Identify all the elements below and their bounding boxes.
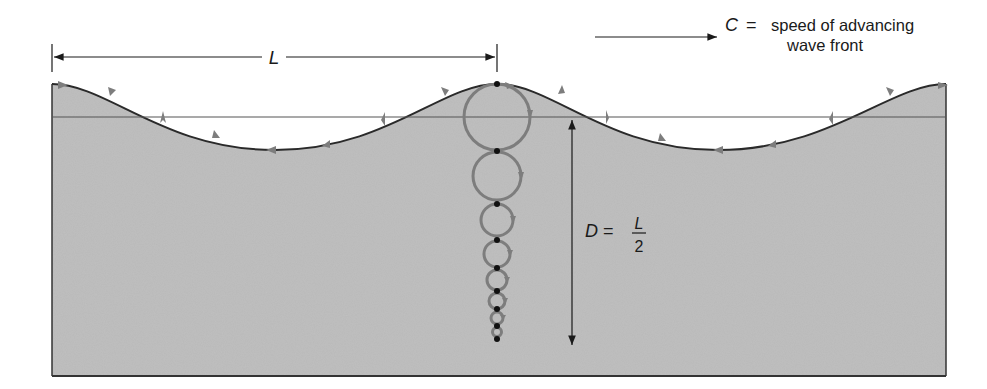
surface-arrow-icon xyxy=(108,87,116,96)
surface-arrow-icon xyxy=(558,85,565,94)
surface-arrow-icon xyxy=(829,111,833,125)
speed-description-line1: speed of advancing xyxy=(771,16,914,34)
wavelength-label: L xyxy=(269,47,280,68)
particle-dot xyxy=(494,323,500,329)
deep-water-wave-diagram: L C = speed of advancing wave front D = … xyxy=(0,0,987,389)
particle-dot xyxy=(494,237,500,243)
particle-dot xyxy=(494,306,500,312)
particle-dot xyxy=(494,81,500,87)
particle-dot xyxy=(494,336,500,342)
particle-dot xyxy=(494,148,500,154)
depth-equals: = xyxy=(603,221,614,241)
depth-fraction-numerator: L xyxy=(635,215,644,232)
water-body xyxy=(52,84,946,376)
speed-equals: = xyxy=(746,15,757,35)
water-fill xyxy=(52,84,946,376)
surface-arrow-icon xyxy=(606,110,609,124)
particle-dot xyxy=(494,288,500,294)
depth-symbol: D xyxy=(585,221,598,241)
surface-arrow-icon xyxy=(658,133,666,141)
surface-arrow-icon xyxy=(886,87,894,96)
surface-arrow-icon xyxy=(381,112,385,126)
speed-symbol: C xyxy=(725,15,739,35)
depth-fraction-denominator: 2 xyxy=(635,238,644,255)
speed-description-line2: wave front xyxy=(786,36,864,54)
wavelength-dimension: L xyxy=(52,44,497,72)
particle-dot xyxy=(494,201,500,207)
particle-dot xyxy=(494,265,500,271)
wave-speed-legend: C = speed of advancing wave front xyxy=(595,15,914,54)
surface-arrow-icon xyxy=(441,87,449,96)
surface-arrow-icon xyxy=(212,130,220,138)
